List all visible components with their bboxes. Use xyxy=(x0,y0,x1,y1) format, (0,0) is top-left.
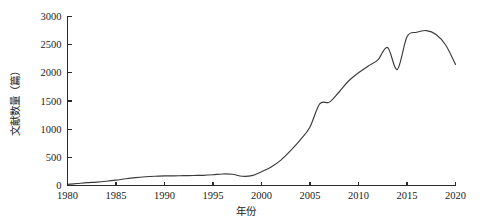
y-axis-title: 文献数量（篇） xyxy=(9,66,21,136)
y-axis-tick-label: 1000 xyxy=(41,124,62,135)
chart-container: 050010001500200025003000 198019851990199… xyxy=(0,0,481,223)
x-axis-tick-label: 2005 xyxy=(300,190,321,201)
x-axis-tick-label: 1980 xyxy=(57,190,78,201)
y-axis-tick-label: 2500 xyxy=(41,39,62,50)
x-axis-tick-label: 1995 xyxy=(203,190,224,201)
y-axis-tick-label: 1500 xyxy=(41,96,62,107)
x-axis-tick-label: 1990 xyxy=(154,190,175,201)
line-chart: 050010001500200025003000 198019851990199… xyxy=(0,0,481,223)
x-axis-title: 年份 xyxy=(236,205,257,217)
x-axis-tick-label: 2015 xyxy=(397,190,418,201)
y-axis-tick-label: 3000 xyxy=(41,11,62,22)
y-axis-tick-label: 2000 xyxy=(41,67,62,78)
x-axis-tick-label: 2010 xyxy=(348,190,369,201)
x-axis-tick-label: 2020 xyxy=(445,190,466,201)
y-axis-tick-label: 500 xyxy=(46,152,62,163)
x-axis-tick-label: 1985 xyxy=(106,190,127,201)
x-axis-tick-label: 2000 xyxy=(251,190,272,201)
